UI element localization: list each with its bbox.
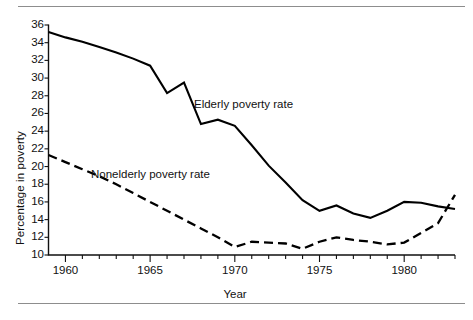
x-tick-label-1965: 1965 [125, 264, 175, 276]
y-axis-title: Percentage in poverty [14, 131, 26, 245]
y-tick-label-32: 32 [14, 53, 44, 65]
y-tick-label-26: 26 [14, 106, 44, 118]
y-tick-label-34: 34 [14, 36, 44, 48]
x-tick-label-1980: 1980 [379, 264, 429, 276]
x-axis-title: Year [175, 288, 295, 300]
y-tick-label-28: 28 [14, 89, 44, 101]
annotation-nonelderly-series: Nonelderly poverty rate [91, 168, 210, 180]
y-tick-label-30: 30 [14, 71, 44, 83]
axis-lines [49, 25, 456, 256]
x-tick-label-1960: 1960 [40, 264, 90, 276]
figure-container: 1012141618202224262830323436 19601965197… [0, 0, 473, 320]
y-tick-label-10: 10 [14, 248, 44, 260]
y-tick-label-36: 36 [14, 18, 44, 30]
x-tick-label-1970: 1970 [210, 264, 260, 276]
x-tick-label-1975: 1975 [295, 264, 345, 276]
annotation-elderly-series: Elderly poverty rate [194, 98, 293, 110]
series-line-elderly [49, 32, 456, 218]
series-group [49, 32, 456, 249]
